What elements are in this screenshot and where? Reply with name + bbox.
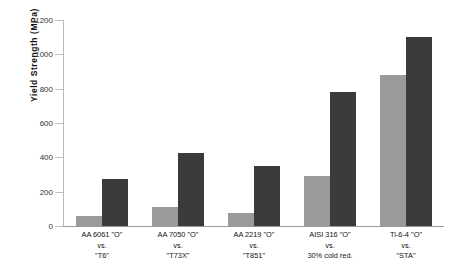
plot-area: 020040060080010001200 <box>64 20 444 226</box>
x-axis-line <box>63 226 444 227</box>
category-label-line: AA 7050 "O" <box>140 230 216 241</box>
x-axis-category-labels: AA 6061 "O"vs."T6"AA 7050 "O"vs."T73X"AA… <box>64 230 444 262</box>
bar <box>380 75 406 226</box>
bar-group <box>64 20 140 226</box>
y-axis-tick-label: 0 <box>49 222 53 231</box>
x-axis-category-label: AA 6061 "O"vs."T6" <box>64 230 140 262</box>
y-axis-tick-label: 600 <box>40 119 53 128</box>
category-label-line: Ti-6-4 "O" <box>368 230 444 241</box>
bar <box>330 92 356 226</box>
bar <box>304 176 330 226</box>
y-axis-tick-label: 1000 <box>35 50 53 59</box>
bar-group <box>216 20 292 226</box>
category-label-line: "T6" <box>64 251 140 262</box>
bar <box>228 213 254 226</box>
y-axis-tick-mark <box>55 89 63 90</box>
category-label-line: AISI 316 "O" <box>292 230 368 241</box>
x-axis-category-label: AA 2219 "O"vs."T851" <box>216 230 292 262</box>
category-label-line: vs. <box>292 241 368 252</box>
bar-chart: Yield Strength (MPa) 0200400600800100012… <box>0 0 455 276</box>
category-label-line: "T851" <box>216 251 292 262</box>
y-axis-tick-mark <box>55 157 63 158</box>
bar <box>254 166 280 226</box>
y-axis-tick-label: 1200 <box>35 16 53 25</box>
category-label-line: "T73X" <box>140 251 216 262</box>
category-label-line: "STA" <box>368 251 444 262</box>
category-label-line: vs. <box>216 241 292 252</box>
y-axis-tick-label: 400 <box>40 153 53 162</box>
category-label-line: 30% cold red. <box>292 251 368 262</box>
x-axis-category-label: AISI 316 "O"vs.30% cold red. <box>292 230 368 262</box>
category-label-line: vs. <box>140 241 216 252</box>
bar <box>102 179 128 226</box>
x-axis-category-label: AA 7050 "O"vs."T73X" <box>140 230 216 262</box>
bar-series-container <box>64 20 444 226</box>
y-axis-tick-mark <box>55 226 63 227</box>
y-axis-tick-mark <box>55 123 63 124</box>
bar-group <box>292 20 368 226</box>
bar <box>406 37 432 226</box>
bar-group <box>368 20 444 226</box>
bar <box>178 153 204 226</box>
y-axis-tick-mark <box>55 20 63 21</box>
category-label-line: vs. <box>368 241 444 252</box>
x-axis-category-label: Ti-6-4 "O"vs."STA" <box>368 230 444 262</box>
y-axis-tick-mark <box>55 54 63 55</box>
bar <box>152 207 178 226</box>
y-axis-tick-label: 800 <box>40 84 53 93</box>
bar-group <box>140 20 216 226</box>
category-label-line: AA 6061 "O" <box>64 230 140 241</box>
category-label-line: AA 2219 "O" <box>216 230 292 241</box>
y-axis-tick-label: 200 <box>40 187 53 196</box>
y-axis-tick-mark <box>55 192 63 193</box>
bar <box>76 216 102 226</box>
category-label-line: vs. <box>64 241 140 252</box>
